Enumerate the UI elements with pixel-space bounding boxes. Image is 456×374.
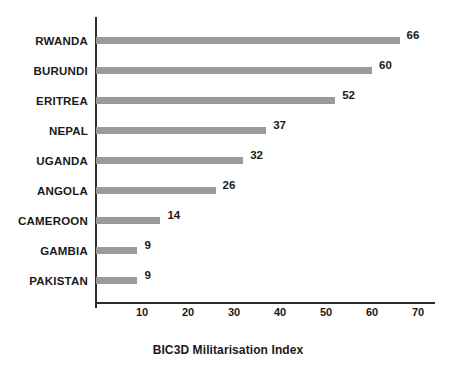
x-tick-label: 20 <box>173 306 203 318</box>
bar <box>96 127 266 134</box>
x-axis-line <box>95 302 435 304</box>
x-axis-title: BIC3D Militarisation Index <box>0 343 456 357</box>
category-label: RWANDA <box>0 26 88 56</box>
x-tick-label: 50 <box>311 306 341 318</box>
category-label: NEPAL <box>0 116 88 146</box>
category-label: ANGOLA <box>0 176 88 206</box>
origin-tick-mark <box>95 296 97 308</box>
bar-row: GAMBIA9 <box>0 236 456 266</box>
bar-value-label: 9 <box>144 269 150 281</box>
bar <box>96 217 160 224</box>
x-tick-label: 60 <box>357 306 387 318</box>
bar-row: ANGOLA26 <box>0 176 456 206</box>
bar-value-label: 37 <box>273 119 286 131</box>
bar-row: ERITREA52 <box>0 86 456 116</box>
bar-value-label: 9 <box>144 239 150 251</box>
plot-area: RWANDA66BURUNDI60ERITREA52NEPAL37UGANDA3… <box>0 0 456 374</box>
bar <box>96 97 335 104</box>
bar <box>96 67 372 74</box>
bar-row: BURUNDI60 <box>0 56 456 86</box>
category-label: PAKISTAN <box>0 266 88 296</box>
bar-value-label: 66 <box>407 29 420 41</box>
category-label: GAMBIA <box>0 236 88 266</box>
bar <box>96 37 400 44</box>
bar-row: PAKISTAN9 <box>0 266 456 296</box>
bar-value-label: 60 <box>379 59 392 71</box>
x-tick-label: 30 <box>219 306 249 318</box>
x-tick-label: 40 <box>265 306 295 318</box>
bar <box>96 157 243 164</box>
bar-value-label: 52 <box>342 89 355 101</box>
bar <box>96 277 137 284</box>
category-label: ERITREA <box>0 86 88 116</box>
bar-row: UGANDA32 <box>0 146 456 176</box>
bar-row: RWANDA66 <box>0 26 456 56</box>
bar-row: CAMEROON14 <box>0 206 456 236</box>
bar <box>96 187 216 194</box>
category-label: BURUNDI <box>0 56 88 86</box>
bar-value-label: 32 <box>250 149 263 161</box>
bar <box>96 247 137 254</box>
bar-value-label: 26 <box>223 179 236 191</box>
bar-row: NEPAL37 <box>0 116 456 146</box>
x-tick-label: 70 <box>403 306 433 318</box>
x-tick-label: 10 <box>127 306 157 318</box>
bar-chart: RWANDA66BURUNDI60ERITREA52NEPAL37UGANDA3… <box>0 0 456 374</box>
category-label: UGANDA <box>0 146 88 176</box>
category-label: CAMEROON <box>0 206 88 236</box>
bar-value-label: 14 <box>167 209 180 221</box>
